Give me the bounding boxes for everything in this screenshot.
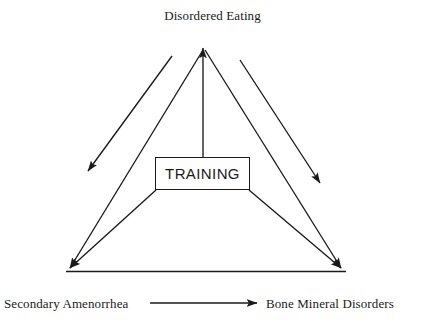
edge-training-to-bottom-right — [249, 190, 341, 268]
edge-training-to-bottom-left — [70, 190, 156, 268]
edge-inner-left-diagonal — [88, 56, 172, 171]
training-box-label: TRAINING — [165, 165, 240, 182]
training-box: TRAINING — [155, 157, 250, 190]
diagram-canvas: Disordered Eating Secondary Amenorrhea B… — [0, 0, 425, 328]
node-label-secondary-amenorrhea: Secondary Amenorrhea — [4, 296, 128, 311]
node-label-disordered-eating: Disordered Eating — [0, 8, 425, 23]
edge-inner-right-diagonal — [240, 60, 320, 183]
node-label-bone-mineral-disorders: Bone Mineral Disorders — [266, 296, 394, 311]
